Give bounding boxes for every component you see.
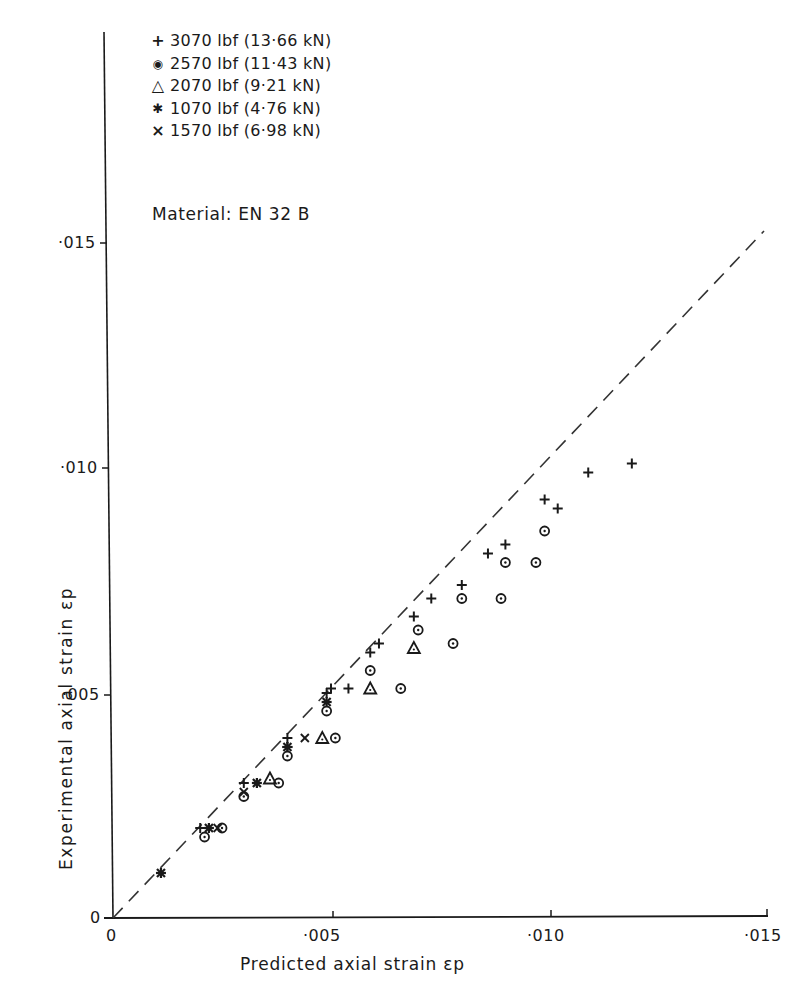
reference-line-dashed	[113, 231, 764, 918]
legend-label: 3070 lbf (13·66 kN)	[170, 30, 331, 53]
triangle-marker-icon	[264, 773, 276, 784]
plus-marker-icon	[483, 549, 493, 559]
circle-dot-marker-icon	[283, 752, 292, 761]
x-axis	[104, 916, 768, 918]
plus-marker-icon	[540, 495, 550, 505]
circle-dot-marker-icon	[540, 527, 549, 536]
plus-marker-icon	[282, 733, 292, 743]
legend-label: 2570 lbf (11·43 kN)	[170, 53, 331, 76]
plus-marker-icon	[343, 684, 353, 694]
legend-item: ◉ 2570 lbf (11·43 kN)	[148, 53, 331, 76]
material-annotation: Material: EN 32 B	[152, 204, 310, 224]
asterisk-marker-icon	[282, 742, 292, 752]
y-origin-label: 0	[90, 908, 101, 927]
x-axis-label: Predicted axial strain εp	[240, 954, 465, 974]
asterisk-marker-icon: ✱	[148, 98, 168, 121]
plus-marker-icon	[627, 459, 637, 469]
x-tick-label: ·015	[744, 926, 782, 945]
plus-marker-icon: +	[148, 30, 168, 53]
legend-item: ✱ 1070 lbf (4·76 kN)	[148, 98, 331, 121]
triangle-marker-icon	[408, 642, 420, 653]
triangle-marker-icon	[364, 683, 376, 694]
triangle-marker-icon	[316, 732, 328, 743]
asterisk-marker-icon	[252, 778, 262, 788]
circle-dot-marker-icon	[239, 792, 248, 801]
legend-label: 1070 lbf (4·76 kN)	[170, 98, 321, 121]
circle-dot-marker-icon	[331, 734, 340, 743]
legend-label: 2070 lbf (9·21 kN)	[170, 75, 321, 98]
circle-dot-marker-icon	[449, 639, 458, 648]
plus-marker-icon	[409, 612, 419, 622]
data-points	[156, 459, 637, 879]
circle-dot-marker-icon	[531, 558, 540, 567]
plus-marker-icon	[426, 594, 436, 604]
circle-dot-marker-icon	[501, 558, 510, 567]
circle-dot-marker-icon	[396, 684, 405, 693]
circle-dot-marker-icon	[366, 666, 375, 675]
plus-marker-icon	[457, 580, 467, 590]
plus-marker-icon	[374, 639, 384, 649]
asterisk-marker-icon	[204, 823, 214, 833]
x-tick-label: ·005	[303, 926, 341, 945]
cross-marker-icon: ×	[148, 120, 168, 143]
asterisk-marker-icon	[156, 868, 166, 878]
plus-marker-icon	[583, 468, 593, 478]
legend-item: △ 2070 lbf (9·21 kN)	[148, 75, 331, 98]
legend: + 3070 lbf (13·66 kN) ◉ 2570 lbf (11·43 …	[148, 30, 331, 143]
plus-marker-icon	[365, 648, 375, 658]
cross-marker-icon	[301, 734, 309, 742]
legend-item: × 1570 lbf (6·98 kN)	[148, 120, 331, 143]
circle-dot-marker-icon	[322, 707, 331, 716]
legend-label: 1570 lbf (6·98 kN)	[170, 120, 321, 143]
plus-marker-icon	[195, 823, 205, 833]
circle-dot-marker-icon	[457, 594, 466, 603]
circle-dot-marker-icon	[414, 626, 423, 635]
legend-item: + 3070 lbf (13·66 kN)	[148, 30, 331, 53]
circle-dot-marker-icon	[497, 594, 506, 603]
x-origin-label: 0	[106, 926, 117, 945]
triangle-marker-icon: △	[148, 75, 168, 98]
circle-dot-marker-icon	[200, 833, 209, 842]
plus-marker-icon	[239, 778, 249, 788]
y-tick-label: ·015	[58, 233, 96, 252]
y-axis	[104, 32, 113, 918]
asterisk-marker-icon	[322, 697, 332, 707]
y-tick-label: ·010	[60, 458, 98, 477]
plus-marker-icon	[553, 504, 563, 514]
circle-dot-marker-icon: ◉	[148, 53, 168, 76]
y-axis-label: Experimental axial strain εp	[56, 587, 76, 870]
scatter-plot	[0, 0, 802, 988]
plus-marker-icon	[500, 540, 510, 550]
x-tick-label: ·010	[527, 926, 565, 945]
